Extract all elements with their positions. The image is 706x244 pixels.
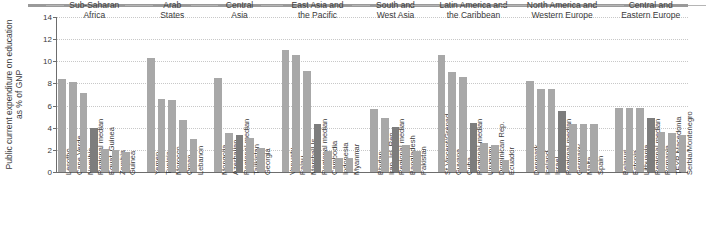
region-group: CentralAsiaMongoliaAzerbaijanRegional me… [213, 17, 266, 172]
y-tick-label: 12 [43, 35, 52, 44]
group-header-dash [500, 5, 518, 6]
region-group-title: South andWest Asia [376, 1, 415, 20]
region-group-title: East Asia andthe Pacific [292, 1, 344, 20]
group-header-dash [595, 5, 613, 6]
y-tick-label: 14 [43, 13, 52, 22]
y-tick-label: 10 [43, 57, 52, 66]
group-header-dash [352, 5, 370, 6]
y-tick-label: 8 [48, 79, 52, 88]
region-group-title-line: West Asia [376, 11, 415, 21]
x-tick-label: Georgia [264, 148, 272, 175]
group-header-dash [265, 5, 283, 6]
plot-area: 02468101214Sub-SaharanAfricaLesothoCape … [57, 17, 688, 172]
region-group: North America andWestern EuropeDenmarkIc… [525, 17, 600, 172]
x-tick-label: Lebanon [197, 146, 205, 175]
group-header-dash [411, 5, 429, 6]
group-header-dash [135, 5, 153, 6]
group-header-dash [200, 5, 218, 6]
y-tick-label: 0 [48, 168, 52, 177]
region-group-title-line: Africa [69, 11, 119, 21]
region-group-title: Latin America andthe Caribbean [439, 1, 507, 20]
region-group-title: Sub-SaharanAfrica [69, 1, 119, 20]
region-group-title-line: the Caribbean [439, 11, 507, 21]
group-header-dash [688, 5, 706, 6]
x-tick-label: Spain [597, 156, 605, 175]
x-tick-label: Guinea [129, 151, 137, 175]
y-axis-title: Public current expenditure on education … [4, 17, 24, 172]
y-tick-label: 4 [48, 123, 52, 132]
region-group-title-line: Eastern Europe [621, 11, 680, 21]
region-group: East Asia andthe PacificVanuatuPalauMars… [280, 17, 355, 172]
y-tick-label: 2 [48, 145, 52, 154]
group-header-dash [46, 5, 64, 6]
region-group: Central andEastern EuropeBelarusEstoniaL… [613, 17, 688, 172]
region-group: South andWest AsiaBhutanIran, Isl. Rep.R… [369, 17, 422, 172]
region-group: ArabStatesYemenTunisiaMoroccoOmanLebanon [146, 17, 199, 172]
x-tick-label: Myanmar [353, 144, 361, 175]
region-group-title: CentralAsia [226, 1, 253, 20]
region-group-title: North America andWestern Europe [527, 1, 597, 20]
region-group-title: Central andEastern Europe [621, 1, 680, 20]
x-tick-label: Pakistan [420, 146, 428, 175]
y-tick-mark [53, 172, 57, 173]
region-group: Latin America andthe CaribbeanSt Vincent… [436, 17, 511, 172]
region-group-title-line: the Pacific [292, 11, 344, 21]
x-tick-label: Ecuador [508, 147, 516, 175]
region-group-title-line: Asia [226, 11, 253, 21]
bar [292, 55, 300, 172]
region-group-title-line: Western Europe [527, 11, 597, 21]
region-group-title: ArabStates [160, 1, 184, 20]
region-group-title-line: States [160, 11, 184, 21]
x-tick-label: Serbia/Montenegro [686, 111, 694, 175]
y-tick-label: 6 [48, 101, 52, 110]
region-group: Sub-SaharanAfricaLesothoCape VerdeNamibi… [57, 17, 132, 172]
